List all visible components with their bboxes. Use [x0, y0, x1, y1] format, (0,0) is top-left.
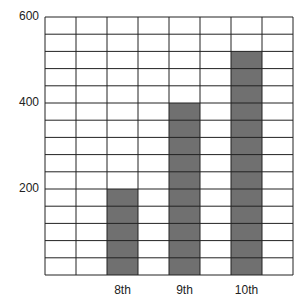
- y-tick-label: 600: [9, 9, 39, 23]
- x-tick-label: 10th: [227, 283, 267, 297]
- bar-8th: [107, 189, 138, 275]
- x-tick-label: 9th: [165, 283, 205, 297]
- y-tick-label: 400: [9, 95, 39, 109]
- plot-area: [0, 0, 307, 305]
- bar-chart: 600400200 8th9th10th: [0, 0, 307, 305]
- x-tick-label: 8th: [103, 283, 143, 297]
- bar-10th: [231, 51, 262, 275]
- y-tick-label: 200: [9, 181, 39, 195]
